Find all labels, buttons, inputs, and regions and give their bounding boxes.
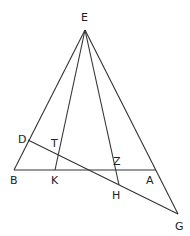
segment-EG (85, 30, 178, 214)
segment-EK (55, 30, 85, 170)
label-E: E (81, 11, 88, 24)
geometry-diagram: E D T Z B K A H G (0, 0, 190, 236)
segment-EB (14, 30, 85, 170)
label-G: G (175, 220, 184, 233)
label-T: T (50, 137, 58, 150)
label-Z: Z (113, 155, 121, 168)
label-D: D (18, 133, 26, 146)
label-H: H (112, 189, 120, 202)
label-A: A (146, 174, 154, 187)
label-K: K (51, 174, 59, 187)
label-B: B (10, 174, 18, 187)
